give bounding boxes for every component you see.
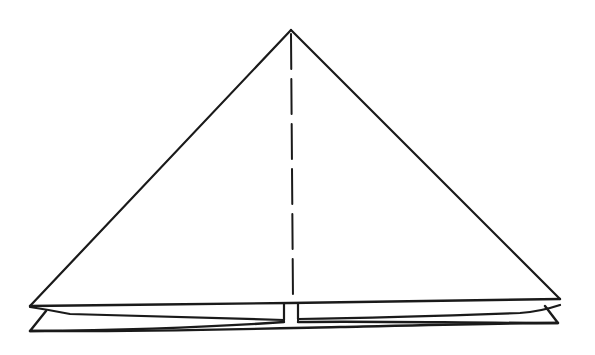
bottom-layer-right	[298, 306, 558, 323]
second-layer-right-flap	[298, 304, 560, 319]
fold-line-dashed	[291, 34, 293, 300]
top-layer-bottom-edge	[30, 299, 560, 306]
origami-diagram	[0, 0, 595, 355]
triangle-right-edge	[291, 30, 560, 299]
bottom-layer-base	[30, 323, 558, 331]
center-slit	[284, 304, 298, 322]
triangle-left-edge	[30, 30, 291, 306]
